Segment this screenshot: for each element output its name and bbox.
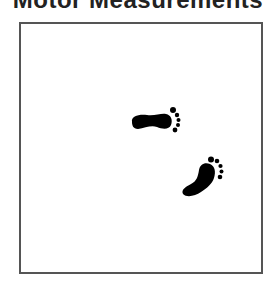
footprint-icon bbox=[129, 106, 183, 134]
drawing-canvas bbox=[19, 22, 263, 274]
footprint-icon bbox=[179, 156, 231, 200]
page-title: Motor Measurements bbox=[0, 0, 276, 14]
